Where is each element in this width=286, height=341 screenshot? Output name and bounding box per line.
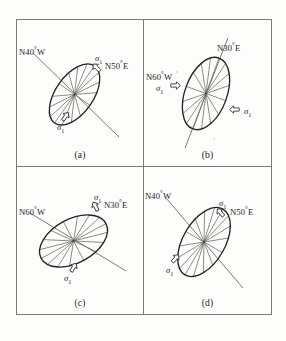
panel-b-left-bearing-label: N60°W	[146, 72, 172, 82]
panel-c-right-bearing-label: N30°E	[104, 200, 127, 210]
panel-d-sigma-lower-label: σ1	[166, 265, 173, 277]
panel-b-sigma-upper-arrow	[170, 80, 181, 91]
panel-a-left-bearing-label: N40°W	[19, 47, 45, 57]
panel-c-diagram	[17, 167, 143, 314]
panel-a-sigma-upper-arrow	[91, 62, 102, 73]
panel-d-sigma-lower-arrow	[170, 253, 181, 264]
panel-b-right-bearing-label: N30°E	[217, 43, 240, 53]
panel-a-caption: (a)	[17, 150, 143, 160]
panel-c-caption: (c)	[17, 298, 143, 308]
panel-a-sigma-lower-label: σ1	[57, 122, 64, 134]
panel-b: N30°E N60°W σ1 σ1 (b)	[144, 20, 271, 167]
panel-c: N60°W N30°E σ1 σ1 (c)	[17, 167, 144, 314]
panel-d-right-bearing-label: N50°E	[230, 207, 253, 217]
panel-a: N40°W N50°E σ1 σ1 (a)	[17, 20, 144, 167]
panel-a-sigma-lower-arrow	[60, 111, 71, 122]
panel-c-sigma-upper-arrow	[90, 201, 101, 212]
figure-canvas: N40°W N50°E σ1 σ1 (a)	[0, 0, 286, 341]
panel-c-sigma-lower-label: σ1	[64, 273, 71, 285]
panel-d: N40°W N50°E σ1 σ1 (d)	[144, 167, 271, 314]
panel-b-sigma-lower-arrow	[229, 104, 240, 115]
panel-c-sigma-lower-arrow	[68, 262, 79, 273]
panel-b-caption: (b)	[144, 150, 271, 160]
panel-d-left-bearing-label: N40°W	[145, 191, 171, 201]
panel-c-left-bearing-label: N60°W	[19, 207, 45, 217]
panel-d-caption: (d)	[144, 298, 271, 308]
panel-a-right-bearing-label: N50°E	[105, 61, 128, 71]
panel-d-diagram	[144, 167, 271, 314]
panel-a-diagram	[17, 20, 143, 166]
panel-grid: N40°W N50°E σ1 σ1 (a)	[16, 19, 272, 315]
panel-d-sigma-upper-arrow	[215, 207, 226, 218]
panel-b-sigma-upper-label: σ1	[156, 83, 163, 95]
panel-b-sigma-lower-label: σ1	[244, 106, 251, 118]
